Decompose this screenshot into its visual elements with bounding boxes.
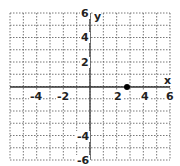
x-tick-label: -4: [29, 91, 43, 102]
y-axis-label: y: [94, 11, 101, 22]
data-point: [124, 84, 130, 90]
y-tick-label: -6: [76, 155, 90, 166]
x-tick-label: 6: [166, 91, 174, 102]
y-tick-label: 6: [80, 8, 90, 19]
y-tick-label: 4: [80, 32, 90, 43]
x-axis-label: x: [164, 75, 171, 86]
y-tick-label: 2: [80, 57, 90, 68]
x-tick-label: -2: [56, 91, 70, 102]
x-tick-label: 4: [140, 91, 150, 102]
y-tick-label: -4: [76, 131, 90, 142]
x-tick-label: 2: [113, 91, 123, 102]
